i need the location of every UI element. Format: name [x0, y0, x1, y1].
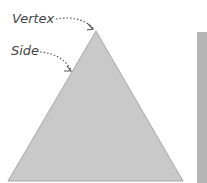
triangle-diagram: Vertex Side: [0, 0, 207, 183]
side-label: Side: [11, 43, 39, 58]
vertex-label: Vertex: [12, 11, 55, 26]
side-arrow-icon: [40, 52, 71, 70]
vertex-arrow-icon: [56, 18, 93, 28]
side-rectangle: [197, 32, 207, 183]
